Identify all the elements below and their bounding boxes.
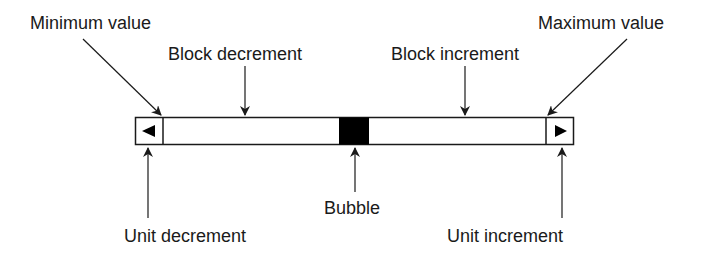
bubble-label: Bubble [324,199,380,217]
minimum-value-label: Minimum value [30,14,151,32]
scrollbar-bubble[interactable] [339,118,369,145]
scrollbar [136,118,574,145]
unit-increment-label: Unit increment [447,227,563,245]
scrollbar-diagram: Minimum value Block decrement Block incr… [0,0,716,255]
maximum-value-label: Maximum value [538,14,664,32]
block-increment-label: Block increment [391,45,519,63]
maximum-value-arrow [548,39,627,115]
minimum-value-arrow [83,39,161,115]
unit-decrement-label: Unit decrement [124,227,246,245]
block-decrement-label: Block decrement [168,45,302,63]
